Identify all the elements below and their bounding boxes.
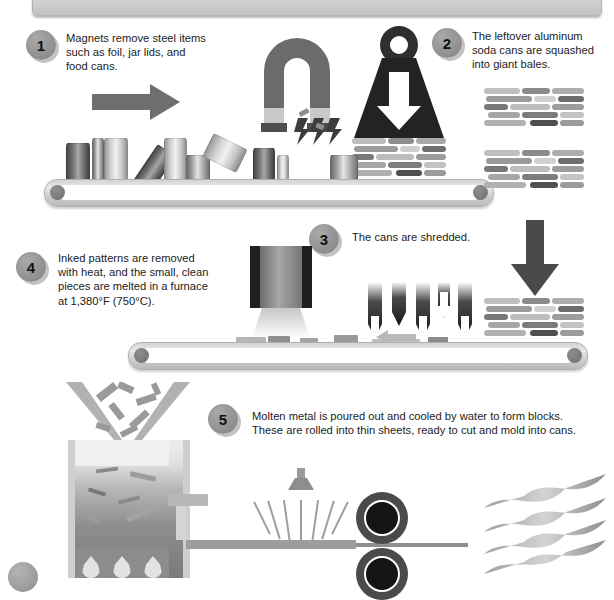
water-spray-nozzle-icon — [276, 468, 326, 496]
heat-printer-icon — [246, 246, 316, 338]
can-on-belt — [104, 138, 128, 183]
can-on-belt — [164, 138, 187, 183]
can-on-belt — [253, 148, 275, 183]
metal-strip — [186, 540, 356, 549]
step-number-1: 1 — [37, 37, 45, 54]
spray-line — [311, 500, 319, 544]
step-2-line-3: into giant bales. — [472, 57, 614, 71]
step-5-line-1: Molten metal is poured out and cooled by… — [252, 409, 614, 423]
giant-bale — [484, 150, 586, 194]
step-2-line-2: soda cans are squashed — [472, 43, 614, 57]
step-4-line-3: pieces are melted in a furnace — [58, 279, 258, 293]
step-text-2: The leftover aluminum soda cans are squa… — [472, 29, 614, 72]
step-4-line-1: Inked patterns are removed — [58, 251, 258, 265]
pour-spout — [168, 494, 208, 506]
step-number-4: 4 — [27, 259, 35, 276]
step-4-line-2: with heat, and the small, clean — [58, 265, 258, 279]
conveyor-belt-1 — [44, 179, 494, 207]
metal-strip-thin — [356, 543, 468, 547]
step-text-1: Magnets remove steel items such as foil,… — [66, 31, 246, 74]
step-text-4: Inked patterns are removed with heat, an… — [58, 251, 258, 308]
step-text-3: The cans are shredded. — [352, 230, 552, 244]
step-badge-6 — [8, 562, 38, 592]
step-number-5: 5 — [219, 411, 227, 428]
step-1-line-1: Magnets remove steel items — [66, 31, 246, 45]
spray-line — [300, 500, 302, 544]
step-1-line-2: such as foil, jar lids, and — [66, 45, 246, 59]
step-text-5: Molten metal is poured out and cooled by… — [252, 409, 614, 437]
spray-line — [283, 500, 291, 544]
header-banner: HOW FROZEN CANS ARE RECYCLED INTO NEW CA… — [32, 0, 602, 16]
step-number-2: 2 — [443, 35, 451, 52]
step-badge-1: 1 — [26, 30, 56, 60]
rotating-roller-icon[interactable] — [356, 492, 408, 544]
lightning-spark-icon — [292, 118, 352, 146]
page-title: HOW FROZEN CANS ARE RECYCLED INTO NEW CA… — [33, 0, 601, 4]
right-arrow-icon — [92, 82, 182, 122]
giant-bale — [484, 298, 586, 342]
step-3-line-1: The cans are shredded. — [352, 230, 552, 244]
spray-line — [331, 501, 349, 534]
step-badge-4: 4 — [16, 252, 46, 282]
rotating-roller-icon[interactable] — [356, 548, 408, 600]
conveyor-belt-2 — [128, 342, 588, 370]
giant-bale — [484, 88, 586, 132]
can-on-belt — [92, 138, 104, 183]
step-number-3: 3 — [320, 231, 328, 248]
step-badge-5: 5 — [208, 404, 238, 434]
step-1-line-3: food cans. — [66, 59, 246, 73]
pour-spout-drop — [176, 506, 186, 540]
step-badge-2: 2 — [432, 28, 462, 58]
step-5-line-2: These are rolled into thin sheets, ready… — [252, 423, 614, 437]
squashed-bale — [352, 138, 448, 180]
step-2-line-1: The leftover aluminum — [472, 29, 614, 43]
can-on-belt — [66, 143, 90, 183]
metal-sheet-stack-icon — [480, 468, 610, 578]
furnace-air-gap — [75, 440, 169, 466]
step-4-line-4: at 1,380°F (750°C). — [58, 294, 258, 308]
